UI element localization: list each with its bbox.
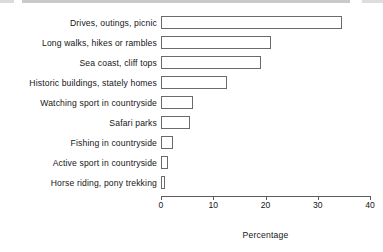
- category-label: Watching sport in countryside: [0, 93, 157, 113]
- bar: [161, 116, 190, 129]
- bar: [161, 76, 227, 89]
- bar-row: Fishing in countryside: [0, 133, 383, 153]
- bar: [161, 156, 168, 169]
- bar: [161, 56, 261, 69]
- bar-row: Active sport in countryside: [0, 153, 383, 173]
- category-label: Historic buildings, stately homes: [0, 73, 157, 93]
- bar-row: Safari parks: [0, 113, 383, 133]
- bar: [161, 136, 173, 149]
- bar: [161, 176, 165, 189]
- bar: [161, 36, 271, 49]
- bar-row: Horse riding, pony trekking: [0, 173, 383, 193]
- category-label: Active sport in countryside: [0, 153, 157, 173]
- bar-row: Long walks, hikes or rambles: [0, 33, 383, 53]
- bar-row: Drives, outings, picnic: [0, 13, 383, 33]
- bar-row: Sea coast, cliff tops: [0, 53, 383, 73]
- category-label: Fishing in countryside: [0, 133, 157, 153]
- x-axis-tick-label: 40: [355, 200, 383, 210]
- bar-chart: Drives, outings, picnicLong walks, hikes…: [0, 0, 383, 252]
- x-axis-title: Percentage: [161, 230, 370, 240]
- bar-row: Watching sport in countryside: [0, 93, 383, 113]
- x-axis-tick-label: 10: [198, 200, 228, 210]
- plot-area: Drives, outings, picnicLong walks, hikes…: [0, 0, 383, 252]
- x-axis-tick-label: 20: [251, 200, 281, 210]
- x-axis-tick-label: 0: [146, 200, 176, 210]
- bar: [161, 96, 193, 109]
- category-label: Safari parks: [0, 113, 157, 133]
- x-axis-tick-label: 30: [303, 200, 333, 210]
- bar: [161, 16, 342, 29]
- category-label: Sea coast, cliff tops: [0, 53, 157, 73]
- bar-row: Historic buildings, stately homes: [0, 73, 383, 93]
- category-label: Long walks, hikes or rambles: [0, 33, 157, 53]
- category-label: Horse riding, pony trekking: [0, 173, 157, 193]
- category-label: Drives, outings, picnic: [0, 13, 157, 33]
